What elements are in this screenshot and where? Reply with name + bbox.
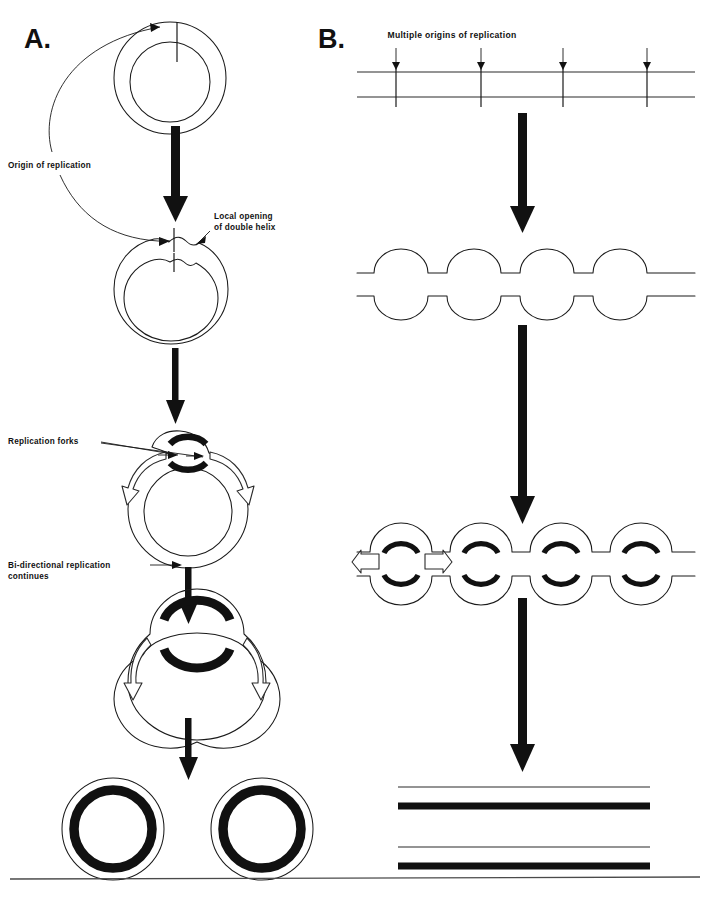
panel-b-arrow-2-shaft: [518, 325, 527, 503]
panel-b-letter: B.: [318, 24, 345, 54]
label-local-opening-line-1: Local opening: [214, 212, 273, 221]
arrow-4-shaft: [185, 718, 192, 762]
label-multiple-origins: Multiple origins of replication: [387, 30, 516, 40]
arrow-1-shaft: [171, 126, 180, 202]
panel-b-arrow-1-shaft: [518, 113, 527, 212]
figure-background: [0, 0, 710, 900]
arrow-2-shaft: [172, 348, 179, 406]
replication-figure: A. Origin of replication: [0, 0, 710, 900]
label-bidirectional-line-2: continues: [8, 572, 49, 581]
panel-a-letter: A.: [24, 24, 51, 54]
label-local-opening-line-2: of double helix: [214, 223, 276, 232]
label-bidirectional-line-1: Bi-directional replication: [8, 561, 111, 570]
label-replication-forks: Replication forks: [8, 437, 79, 446]
label-origin-of-replication: Origin of replication: [8, 161, 91, 170]
panel-b-arrow-3-shaft: [518, 598, 527, 750]
